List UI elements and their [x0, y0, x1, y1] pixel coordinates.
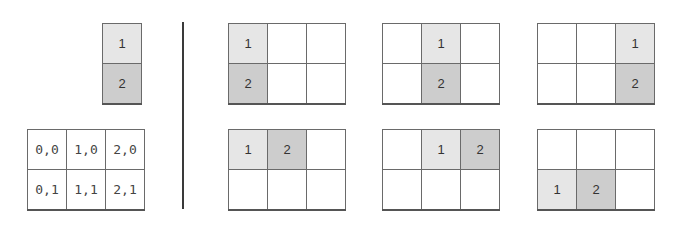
grid-cell: 1 [229, 24, 268, 64]
grid-cell [268, 170, 307, 211]
grid-cell: 2 [577, 170, 616, 211]
piece-cell-2: 2 [103, 64, 142, 105]
grid-cell [461, 24, 500, 64]
grid-cell: 2 [229, 64, 268, 105]
grid-cell: 1 [422, 130, 461, 170]
grid-cell [538, 130, 577, 170]
grid-cell [577, 64, 616, 105]
grid-cell [422, 170, 461, 211]
coord-cell: 1,0 [67, 130, 106, 170]
placement-vertical-col0: 1 2 [228, 23, 346, 105]
grid-cell [268, 64, 307, 105]
grid-cell [229, 170, 268, 211]
placement-vertical-col2: 1 2 [537, 23, 655, 105]
piece-vertical: 1 2 [102, 23, 142, 105]
grid-cell [307, 64, 346, 105]
grid-cell [383, 24, 422, 64]
grid-cell [383, 170, 422, 211]
grid-cell [616, 170, 655, 211]
grid-cell [538, 24, 577, 64]
coord-cell: 0,0 [28, 130, 67, 170]
grid-cell: 2 [268, 130, 307, 170]
coordinate-grid: 0,0 1,0 2,0 0,1 1,1 2,1 [27, 129, 145, 211]
grid-cell: 2 [422, 64, 461, 105]
piece-cell-1: 1 [103, 24, 142, 64]
grid-cell [307, 130, 346, 170]
grid-cell: 2 [616, 64, 655, 105]
vertical-divider [182, 22, 184, 209]
coord-cell: 1,1 [67, 170, 106, 211]
grid-cell [577, 24, 616, 64]
grid-cell: 1 [422, 24, 461, 64]
placement-horizontal-1: 1 2 [382, 129, 500, 211]
grid-cell [307, 170, 346, 211]
grid-cell [461, 64, 500, 105]
grid-cell [538, 64, 577, 105]
grid-cell: 2 [461, 130, 500, 170]
grid-cell [461, 170, 500, 211]
coord-cell: 2,1 [106, 170, 145, 211]
grid-cell [307, 24, 346, 64]
grid-cell: 1 [616, 24, 655, 64]
grid-cell: 1 [229, 130, 268, 170]
coord-cell: 0,1 [28, 170, 67, 211]
coord-cell: 2,0 [106, 130, 145, 170]
grid-cell [383, 130, 422, 170]
grid-cell [577, 130, 616, 170]
placement-horizontal-2: 1 2 [537, 129, 655, 211]
placement-horizontal-0: 1 2 [228, 129, 346, 211]
grid-cell [268, 24, 307, 64]
placement-vertical-col1: 1 2 [382, 23, 500, 105]
grid-cell [383, 64, 422, 105]
grid-cell: 1 [538, 170, 577, 211]
grid-cell [616, 130, 655, 170]
